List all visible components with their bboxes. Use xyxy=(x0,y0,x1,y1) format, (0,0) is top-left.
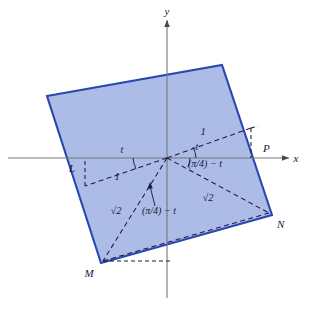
y-axis-label: y xyxy=(164,5,170,17)
x-axis-label: x xyxy=(293,152,299,164)
annotation-angle-upper-left: t xyxy=(121,144,124,155)
annotation-len-diagonal-left: √2 xyxy=(110,205,122,216)
annotation-angle-lower-right: (π/4) − t xyxy=(188,158,222,170)
geometry-diagram: x y L P N M 1 t (π/4) − t t 1 √2 (π/4) −… xyxy=(0,0,318,309)
annotation-len-upper-right: 1 xyxy=(200,126,205,137)
point-label-N: N xyxy=(276,218,285,230)
annotation-angle-upper-right: t xyxy=(196,141,199,152)
annotation-len-lower-left: 1 xyxy=(114,171,119,182)
point-label-L: L xyxy=(68,162,75,174)
annotation-len-diagonal-right: √2 xyxy=(202,192,214,203)
annotation-angle-diagonal-left: (π/4) − t xyxy=(142,205,176,217)
point-label-M: M xyxy=(83,267,94,279)
figure-page: Symbolic algebra computer program abstra… xyxy=(0,0,318,309)
point-label-P: P xyxy=(262,142,270,154)
